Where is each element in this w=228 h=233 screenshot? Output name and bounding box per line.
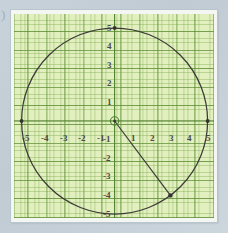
part-label: ) — [1, 8, 5, 22]
y-tick-label: -3 — [103, 172, 111, 181]
page-background: ) — [0, 0, 228, 233]
point-5-0 — [206, 119, 210, 123]
point-3-neg4 — [168, 193, 172, 197]
x-tick-label: -3 — [60, 134, 68, 143]
axes — [14, 14, 214, 218]
y-tick-label: -4 — [103, 191, 111, 200]
y-tick-label: -2 — [103, 154, 111, 163]
x-tick-label: 4 — [187, 134, 192, 143]
point-0-5 — [113, 26, 117, 30]
point-neg5-0 — [20, 119, 24, 123]
x-tick-label: 3 — [169, 134, 174, 143]
y-tick-label: 4 — [107, 42, 112, 51]
radius-segment — [115, 121, 171, 195]
x-tick-label: -4 — [41, 134, 49, 143]
y-tick-label: 5 — [107, 24, 112, 33]
figure-frame: -5 -4 -3 -2 -1 1 2 3 4 5 5 4 3 2 1 -1 -2… — [11, 10, 217, 222]
x-tick-label: 2 — [150, 134, 155, 143]
y-tick-label: -5 — [103, 210, 111, 218]
x-tick-label: 5 — [206, 134, 211, 143]
point-origin — [113, 120, 116, 123]
x-tick-label: 1 — [131, 134, 136, 143]
y-tick-label: 2 — [107, 79, 112, 88]
x-tick-label: -5 — [22, 134, 30, 143]
y-tick-label: 3 — [107, 61, 112, 70]
plot-svg — [14, 14, 214, 218]
graph-panel: -5 -4 -3 -2 -1 1 2 3 4 5 5 4 3 2 1 -1 -2… — [14, 14, 214, 218]
y-tick-label: 1 — [107, 98, 112, 107]
y-tick-label: -1 — [103, 135, 111, 144]
x-tick-label: -2 — [78, 134, 86, 143]
